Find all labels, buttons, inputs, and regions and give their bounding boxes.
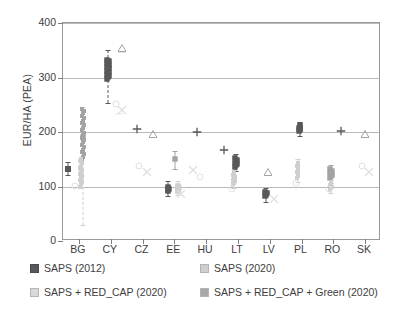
error-bar-cap: [65, 162, 70, 163]
legend-item-3: SAPS + RED_CAP + Green (2020): [200, 286, 378, 298]
data-point-square: [328, 167, 333, 172]
gridline-200: [63, 132, 379, 133]
error-bar-cap: [176, 181, 181, 182]
error-bar-cap: [263, 202, 268, 203]
error-bar-cap: [173, 169, 178, 170]
chart-legend: SAPS (2012)SAPS (2020)SAPS + RED_CAP (20…: [30, 262, 390, 308]
x-tick-label-RO: RO: [324, 243, 340, 255]
error-bar-cap: [263, 188, 268, 189]
legend-item-2: SAPS + RED_CAP (2020): [30, 286, 167, 298]
chart-figure: EUR/HA (PEA) 0100200300400 BGCYCZEEHULTL…: [0, 0, 420, 313]
data-point-x: [142, 162, 151, 171]
error-bar-cap: [80, 225, 85, 226]
data-point-x: [117, 100, 126, 109]
legend-swatch-icon: [200, 288, 209, 297]
data-point-plus: [132, 120, 141, 129]
y-tick-100: [58, 187, 63, 188]
data-point-circle: [197, 173, 204, 180]
data-point-square: [80, 134, 85, 139]
data-point-circle: [326, 185, 333, 192]
y-tick-label-100: 100: [38, 180, 56, 192]
data-point-dash: [115, 113, 122, 114]
data-point-plus: [337, 122, 346, 131]
error-bar-cap: [233, 154, 238, 155]
x-tick-label-EE: EE: [166, 243, 180, 255]
data-point-square: [79, 157, 83, 161]
data-point-square: [233, 156, 238, 161]
error-bar-cap: [173, 151, 178, 152]
legend-label: SAPS + RED_CAP (2020): [44, 286, 167, 298]
y-tick-0: [58, 241, 63, 242]
data-point-plus: [193, 123, 202, 132]
data-point-x: [269, 190, 278, 199]
x-tick-label-SK: SK: [357, 243, 371, 255]
legend-item-0: SAPS (2012): [30, 262, 105, 274]
data-point-x: [189, 161, 198, 170]
data-point-square: [104, 57, 109, 62]
error-bar-whisker: [175, 151, 176, 170]
data-point-x: [365, 162, 374, 171]
x-axis-tick-labels: BGCYCZEEHULTLVPLROSK: [62, 243, 380, 259]
x-tick-label-LT: LT: [231, 243, 242, 255]
legend-item-1: SAPS (2020): [200, 262, 275, 274]
x-tick-label-HU: HU: [198, 243, 213, 255]
data-point-circle: [135, 163, 142, 170]
y-tick-label-400: 400: [38, 16, 56, 28]
error-bar-cap: [329, 193, 334, 194]
x-tick-label-LV: LV: [263, 243, 275, 255]
legend-swatch-icon: [30, 264, 39, 273]
y-axis-tick-labels: 0100200300400: [28, 22, 56, 240]
error-bar-cap: [329, 165, 334, 166]
data-point-circle: [292, 179, 299, 186]
y-axis-title-wrap: EUR/HA (PEA): [0, 0, 30, 262]
y-tick-200: [58, 132, 63, 133]
legend-label: SAPS (2012): [44, 262, 105, 274]
y-tick-400: [58, 23, 63, 24]
legend-swatch-icon: [200, 264, 209, 273]
data-point-square: [232, 171, 236, 175]
legend-label: SAPS + RED_CAP + Green (2020): [214, 286, 378, 298]
x-tick-label-CZ: CZ: [135, 243, 149, 255]
error-bar-cap: [105, 103, 110, 104]
y-tick-300: [58, 78, 63, 79]
error-bar-cap: [166, 196, 171, 197]
x-tick-label-CY: CY: [102, 243, 117, 255]
data-point-triangle: [148, 124, 157, 132]
data-point-plus: [219, 140, 228, 149]
legend-swatch-icon: [30, 288, 39, 297]
x-tick-label-PL: PL: [294, 243, 307, 255]
data-point-square: [80, 107, 84, 111]
gridline-400: [63, 23, 379, 24]
data-point-x: [177, 184, 186, 193]
data-point-triangle: [117, 38, 126, 46]
error-bar-cap: [297, 136, 302, 137]
data-point-square: [296, 161, 300, 165]
error-bar-whisker: [67, 162, 68, 175]
y-tick-label-200: 200: [38, 125, 56, 137]
data-point-square: [262, 189, 267, 194]
y-tick-label-300: 300: [38, 71, 56, 83]
error-bar-cap: [166, 181, 171, 182]
plot-area: [62, 22, 380, 240]
data-point-triangle: [361, 124, 370, 132]
data-point-square: [298, 123, 303, 128]
data-point-square: [166, 184, 171, 189]
data-point-circle: [228, 185, 235, 192]
y-tick-label-0: 0: [50, 234, 56, 246]
legend-label: SAPS (2020): [214, 262, 275, 274]
data-point-dash: [118, 51, 125, 52]
data-point-circle: [71, 182, 78, 189]
error-bar-cap: [105, 50, 110, 51]
data-point-triangle: [263, 162, 272, 170]
x-tick-label-BG: BG: [70, 243, 85, 255]
error-bar-cap: [65, 175, 70, 176]
